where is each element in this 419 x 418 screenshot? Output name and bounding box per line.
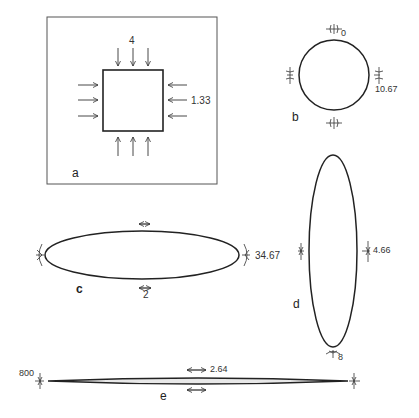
stress-marker-left (36, 244, 44, 266)
panel-d-side-value: 4.66 (373, 246, 391, 255)
compression-arrows-top (118, 48, 148, 66)
panel-e-letter: e (160, 390, 167, 402)
panel-c-letter: c (76, 283, 83, 295)
panel-b-side-value: 10.67 (375, 85, 398, 94)
stress-marker-left (35, 373, 44, 389)
panel-a-side-value: 1.33 (191, 96, 210, 106)
square-hole (103, 70, 163, 131)
circular-hole (299, 40, 369, 110)
panel-e-left-value: 800 (19, 369, 34, 378)
panel-d (298, 155, 370, 358)
panel-c-side-value: 34.67 (255, 251, 280, 261)
compression-arrows-bottom (118, 137, 148, 156)
panel-a-top-value: 4 (129, 36, 135, 46)
stress-marker-right (242, 244, 250, 266)
horizontal-elliptical-hole (45, 231, 239, 279)
stress-marker-bottom (326, 117, 342, 129)
stress-marker-right (349, 373, 360, 389)
panel-c (36, 224, 250, 288)
panel-b-letter: b (292, 111, 299, 123)
panel-e (35, 370, 360, 390)
slit-hole (48, 378, 348, 384)
panel-b (286, 24, 383, 129)
stress-marker-left (286, 67, 294, 84)
panel-c-bottom-value: 2 (143, 290, 149, 300)
diagram-canvas (0, 0, 419, 418)
panel-d-bottom-value: 8 (338, 353, 343, 362)
stress-marker-left (298, 243, 304, 260)
compression-arrows-right (168, 85, 187, 116)
compression-arrows-left (78, 85, 98, 116)
panel-b-top-value: 0 (341, 29, 346, 38)
stress-marker-right (362, 241, 370, 262)
panel-a-letter: a (72, 167, 79, 179)
vertical-elliptical-hole (309, 155, 357, 347)
stress-marker-right (374, 67, 383, 84)
stress-marker-top (326, 24, 342, 34)
panel-d-letter: d (293, 298, 300, 310)
panel-e-top-value: 2.64 (210, 365, 228, 374)
